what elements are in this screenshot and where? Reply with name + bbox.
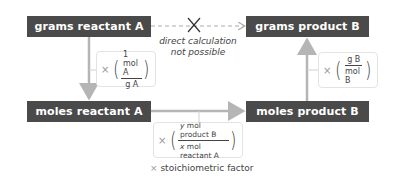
stoichiometric-caption: × stoichiometric factor: [150, 163, 254, 173]
times-icon: ×: [150, 163, 158, 173]
left-paren: (: [171, 129, 177, 151]
node-moles-reactant: moles reactant A: [27, 101, 151, 122]
direct-calculation-note: direct calculation not possible: [150, 36, 246, 58]
node-moles-product: moles product B: [246, 101, 369, 122]
right-paren: ): [366, 59, 372, 81]
left-paren: (: [114, 58, 120, 80]
factor-molar-mass-A: × ( 1 mol A g A ): [96, 51, 156, 87]
numerator-text: mol product B: [180, 121, 216, 139]
node-grams-reactant: grams reactant A: [27, 16, 151, 37]
left-paren: (: [336, 59, 342, 81]
denominator: g A: [123, 79, 140, 89]
fraction: y mol product B x mol reactant A: [178, 121, 229, 160]
caption-text: stoichiometric factor: [158, 163, 254, 173]
times-icon: ×: [158, 135, 166, 146]
node-label: grams product B: [255, 20, 360, 33]
node-label: moles product B: [256, 105, 359, 118]
right-paren: ): [231, 129, 237, 151]
node-label: moles reactant A: [35, 105, 142, 118]
fraction: 1 mol A g A: [121, 50, 142, 89]
denominator: mol B: [343, 66, 364, 85]
factor-stoichiometric: × ( y mol product B x mol reactant A ): [153, 122, 243, 158]
numerator: g B: [345, 55, 362, 66]
note-line-1: direct calculation: [150, 36, 246, 47]
times-icon: ×: [323, 65, 331, 76]
right-paren: ): [144, 58, 150, 80]
note-line-2: not possible: [150, 47, 246, 58]
node-grams-product: grams product B: [246, 16, 369, 37]
numerator: 1 mol A: [121, 50, 142, 79]
times-icon: ×: [101, 64, 109, 75]
fraction: g B mol B: [343, 55, 364, 85]
denominator-text: mol reactant A: [180, 142, 219, 160]
denominator: x mol reactant A: [178, 141, 229, 160]
node-label: grams reactant A: [34, 20, 143, 33]
numerator: y mol product B: [178, 121, 229, 141]
factor-molar-mass-B: × ( g B mol B ): [318, 52, 378, 88]
